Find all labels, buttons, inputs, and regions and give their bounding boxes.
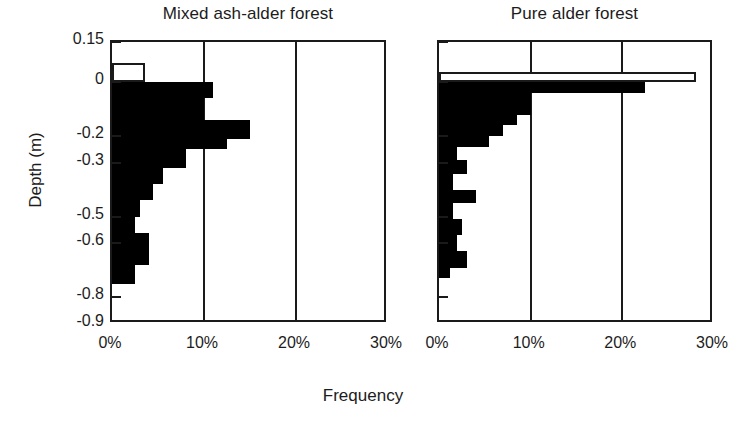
y-tick-mark (112, 81, 121, 83)
x-tick-label: 0% (407, 334, 467, 352)
bar-left-4 (112, 109, 204, 120)
bar-left-12 (112, 200, 140, 216)
y-tick-mark (439, 216, 448, 218)
y-tick-label: -0.9 (8, 312, 104, 330)
y-tick-mark (112, 41, 121, 43)
x-axis-title: Frequency (0, 386, 726, 406)
x-tick-label: 0% (80, 334, 140, 352)
y-tick-mark (439, 135, 448, 137)
y-tick-label: -0.5 (8, 205, 104, 223)
bar-left-13 (112, 217, 135, 233)
y-tick-label: 0 (8, 70, 104, 88)
y-tick-mark (439, 41, 448, 43)
bar-right-6 (439, 147, 457, 160)
y-tick-label: -0.6 (8, 231, 104, 249)
bar-right-2 (439, 93, 531, 114)
y-tick-label: 0.15 (8, 30, 104, 48)
chart-title-left: Mixed ash-alder forest (110, 4, 386, 24)
y-tick-mark (112, 135, 121, 137)
bar-left-16 (112, 265, 135, 284)
y-tick-mark (439, 81, 448, 83)
bar-left-5 (112, 120, 250, 128)
bar-left-7 (112, 139, 227, 150)
bar-right-5 (439, 136, 489, 147)
bar-left-3 (112, 98, 204, 109)
y-tick-label: -0.8 (8, 285, 104, 303)
bar-left-6 (112, 128, 250, 139)
y-axis-tick-labels: 0.150-0.2-0.3-0.5-0.6-0.8-0.9 (0, 40, 104, 322)
x-tick-label: 10% (499, 334, 559, 352)
gridline-20pct (295, 42, 297, 320)
bar-right-13 (439, 251, 467, 267)
y-tick-mark (112, 296, 121, 298)
y-axis-title: Depth (m) (26, 110, 46, 230)
x-tick-label: 20% (590, 334, 650, 352)
x-axis-tick-labels-right: 0%10%20%30% (437, 334, 712, 360)
y-tick-mark (439, 242, 448, 244)
bar-left-15 (112, 249, 149, 265)
y-tick-label: -0.2 (8, 124, 104, 142)
bar-right-0 (439, 72, 696, 83)
y-tick-mark (112, 216, 121, 218)
y-tick-mark (112, 162, 121, 164)
bar-left-10 (112, 168, 163, 184)
bar-right-4 (439, 125, 503, 136)
bar-left-1 (112, 82, 213, 90)
chart-title-right: Pure alder forest (437, 4, 712, 24)
x-tick-label: 20% (264, 334, 324, 352)
x-tick-label: 30% (682, 334, 733, 352)
bar-right-14 (439, 268, 450, 279)
plot-area-right (437, 40, 712, 322)
bar-left-9 (112, 157, 186, 168)
bar-right-11 (439, 219, 462, 235)
x-axis-tick-labels-left: 0%10%20%30% (110, 334, 386, 360)
bar-right-1 (439, 82, 645, 93)
y-tick-mark (439, 162, 448, 164)
plot-area-left (110, 40, 386, 322)
x-tick-label: 10% (172, 334, 232, 352)
y-tick-mark (439, 296, 448, 298)
bar-right-8 (439, 174, 453, 190)
bar-left-0 (112, 63, 145, 82)
bar-right-9 (439, 190, 476, 203)
bar-left-11 (112, 184, 153, 200)
bar-right-3 (439, 115, 517, 126)
y-tick-label: -0.3 (8, 151, 104, 169)
bar-left-2 (112, 90, 213, 98)
bar-left-14 (112, 233, 149, 249)
bar-left-8 (112, 149, 186, 157)
y-tick-mark (112, 242, 121, 244)
